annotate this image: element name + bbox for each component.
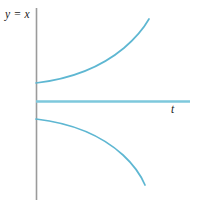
plot-canvas <box>0 0 197 208</box>
upper-solution-curve <box>36 19 149 83</box>
lower-solution-curve <box>36 119 145 185</box>
vertical-axis-label: y = x <box>5 9 30 21</box>
figure-container: y = x t <box>0 0 197 208</box>
horizontal-axis-label: t <box>171 104 174 116</box>
